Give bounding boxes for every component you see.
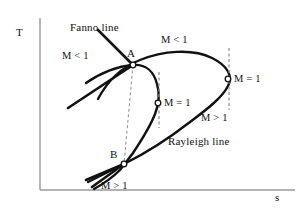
rayleigh-subsonic-label: M < 1 [161, 35, 188, 46]
point-b-label: B [110, 149, 118, 160]
fanno-line-label: Fanno line [70, 22, 119, 33]
fanno-curve [86, 65, 159, 189]
fanno-sonic-marker [155, 100, 161, 106]
point-a-label: A [127, 48, 135, 59]
point-a-marker [130, 62, 136, 68]
rayleigh-sonic-label: M = 1 [234, 74, 261, 85]
point-b-marker [121, 161, 127, 167]
y-axis-label: T [16, 27, 23, 38]
fanno-subsonic-label: M < 1 [62, 51, 89, 62]
fanno-lower-branch [68, 65, 133, 108]
ts-diagram-figure: T s Fanno line Rayleigh line A B M < 1 M… [0, 0, 305, 215]
rayleigh-supersonic-label: M > 1 [201, 113, 228, 124]
fanno-supersonic-label: M > 1 [101, 181, 128, 192]
x-axis-label: s [275, 192, 279, 203]
rayleigh-line-label: Rayleigh line [168, 136, 230, 147]
rayleigh-sonic-marker [225, 76, 231, 82]
fanno-sonic-label: M = 1 [164, 98, 191, 109]
diagram-canvas [0, 0, 305, 215]
shock-chord-dashed [124, 65, 133, 164]
